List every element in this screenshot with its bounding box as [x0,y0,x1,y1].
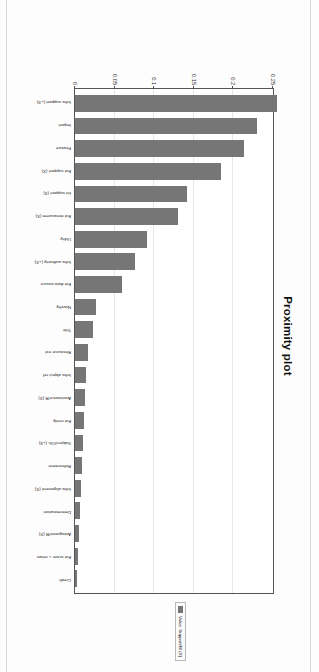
category-label: Assistance/R (X) [38,395,71,400]
category-label: Determination [43,509,70,514]
category-label: Subject/Ofc (+X) [38,441,70,446]
scanned-page: Proximity plot 00.050.10.150.20.25 Infra… [0,0,319,672]
category-cell: Feature [26,136,72,159]
bar-cell [75,364,273,387]
category-cell: Ext support (X) [26,159,72,182]
category-cell: Ext measurem (X) [26,205,72,228]
bar-cell [75,250,273,273]
category-label: Ext entity [52,418,70,423]
category-label: Ext support (X) [41,168,70,173]
bar[interactable] [75,457,82,474]
category-label: Int support (X) [43,191,71,196]
category-label: Credit [59,577,71,582]
bar[interactable] [75,570,77,587]
category-label: Import [58,123,70,128]
category-cell: Determination [26,500,72,523]
page-right-rule [310,0,311,672]
bar[interactable] [75,276,122,293]
category-cell: Credit [26,568,72,591]
bar-cell [75,409,273,432]
y-tick-label: 0.15 [190,74,196,89]
bar-cell [75,183,273,206]
bar[interactable] [75,95,277,112]
rotated-figure-stage: Proximity plot 00.050.10.150.20.25 Infra… [24,36,296,636]
chart-container: Proximity plot 00.050.10.150.20.25 Infra… [24,36,296,636]
bar-cell [75,318,273,341]
category-label: Infra authority (+X) [34,259,70,264]
bar[interactable] [75,140,244,157]
bar[interactable] [75,253,135,270]
bar[interactable] [75,231,147,248]
bar-cell [75,92,273,115]
bar[interactable] [75,480,81,497]
category-cell: Ext data source [26,273,72,296]
y-tick-label: 0.2 [230,77,236,89]
bar[interactable] [75,525,79,542]
category-label: Ext data source [40,282,71,287]
category-cell: Resource ext [26,341,72,364]
plot-area: 00.050.10.150.20.25 [74,88,274,594]
bar-cell [75,205,273,228]
category-label: Resource ext [45,350,71,355]
category-cell: Novelty [26,296,72,319]
bar-series [75,89,273,593]
bar-cell [75,341,273,364]
bar[interactable] [75,163,221,180]
bar[interactable] [75,299,96,316]
chart-legend: Value: Support/Bf (X) [175,602,186,661]
category-cell: Infra alignment (X) [26,477,72,500]
category-label: Title [62,327,70,332]
bar[interactable] [75,502,80,519]
bar-cell [75,454,273,477]
category-cell: Infra support (+X) [26,91,72,114]
bar-cell [75,115,273,138]
bar-cell [75,137,273,160]
bar[interactable] [75,118,257,135]
bar-cell [75,522,273,545]
category-label: Infra alignment (X) [34,486,70,491]
category-cell: Ext score + retain [26,546,72,569]
bar[interactable] [75,412,84,429]
category-cell: Antagonist/R (X) [26,523,72,546]
bar-cell [75,432,273,455]
bar[interactable] [75,367,86,384]
bar-cell [75,386,273,409]
legend-label: Value: Support/Bf (X) [178,616,183,657]
category-label: Feature [55,145,70,150]
bar[interactable] [75,548,78,565]
bar[interactable] [75,344,88,361]
bar-cell [75,296,273,319]
chart-title: Proximity plot [282,36,294,636]
category-cell: Infra authority (+X) [26,250,72,273]
bar-cell [75,228,273,251]
bar-cell [75,273,273,296]
category-cell: Assistance/R (X) [26,387,72,410]
category-label: Ext measurem (X) [35,214,70,219]
category-cell: Int support (X) [26,182,72,205]
y-tick-label: 0.1 [151,77,157,89]
category-label: Ext score + retain [36,555,70,560]
page-left-rule [6,0,7,672]
bar-cell [75,477,273,500]
bar[interactable] [75,321,93,338]
bar[interactable] [75,186,187,203]
category-cell: Utility [26,227,72,250]
bar-cell [75,160,273,183]
category-axis-labels: Infra support (+X)ImportFeatureExt suppo… [26,88,72,594]
category-cell: Import [26,114,72,137]
bar[interactable] [75,208,178,225]
bar-cell [75,567,273,590]
category-label: Refinement [48,464,70,469]
category-cell: Title [26,318,72,341]
bar[interactable] [75,389,85,406]
category-cell: Ext entity [26,409,72,432]
bar[interactable] [75,435,83,452]
category-cell: Infra object ref [26,364,72,387]
category-label: Antagonist/R (X) [38,532,70,537]
category-label: Novelty [56,304,71,309]
bar-cell [75,545,273,568]
y-tick-label: 0.25 [270,74,276,89]
category-cell: Refinement [26,455,72,478]
y-tick-label: 0.05 [111,74,117,89]
category-label: Infra object ref [42,373,70,378]
